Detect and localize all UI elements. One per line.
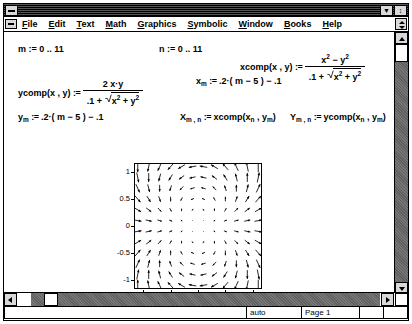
xcomp-numerator: x2 − y2 <box>305 51 365 66</box>
vector-arrow <box>169 220 172 221</box>
vertical-scroll-track[interactable] <box>395 44 408 282</box>
vector-arrow <box>224 220 227 221</box>
vector-arrow <box>181 209 182 212</box>
vector-arrow <box>135 208 141 212</box>
vector-arrow <box>200 165 208 167</box>
vector-arrow <box>234 281 238 288</box>
scroll-up-button[interactable] <box>395 32 408 44</box>
region-y-definition[interactable]: ym := .2·( m − 5 ) − .1 <box>18 112 104 125</box>
vector-arrow <box>224 231 227 232</box>
y-assign: := <box>31 112 38 122</box>
y-rhs: .2·( m − 5 ) − .1 <box>41 112 104 122</box>
vector-arrow <box>213 262 217 266</box>
region-X-matrix-definition[interactable]: Xm , n := xcomp(xn , ym) <box>180 112 276 125</box>
vector-arrow <box>169 174 173 180</box>
vector-arrow <box>223 164 229 170</box>
vector-arrow <box>189 284 197 286</box>
menu-item-books[interactable]: Books <box>284 19 312 30</box>
horizontal-scroll-track[interactable] <box>31 293 380 306</box>
vector-arrow <box>169 231 172 232</box>
vector-arrow <box>211 165 218 169</box>
chevron-up-icon <box>399 21 405 24</box>
region-x-definition[interactable]: xm := .2·( m − 5 ) − .1 <box>196 76 282 89</box>
vector-arrow <box>181 220 183 221</box>
document-system-menu-icon[interactable] <box>5 19 17 29</box>
region-ycomp-definition[interactable]: ycomp(x , y) := 2 x·y .1 + x2 + y2 <box>18 80 143 108</box>
vector-arrow <box>225 251 227 256</box>
status-auto-mode[interactable]: auto <box>247 306 302 319</box>
vector-arrow <box>147 280 150 288</box>
vector-arrow <box>147 164 150 172</box>
vector-arrow <box>257 173 260 183</box>
status-message <box>4 306 247 319</box>
y-tick-label: -0.5 <box>110 249 130 257</box>
scroll-right-button[interactable] <box>381 293 394 306</box>
range-m-text: m := 0 .. 11 <box>18 44 64 54</box>
vector-arrow <box>255 196 261 202</box>
vector-arrow <box>246 184 248 192</box>
vector-arrow <box>235 185 237 192</box>
vector-arrow <box>203 241 205 242</box>
menu-item-edit[interactable]: Edit <box>49 19 66 30</box>
y-tick-label: -1 <box>110 276 130 284</box>
menu-item-math[interactable]: Math <box>105 19 126 30</box>
y-tick-label: 0 <box>110 222 130 230</box>
system-menu-icon[interactable] <box>5 5 18 16</box>
vector-arrow <box>170 251 172 256</box>
region-Y-matrix-definition[interactable]: Ym , n := ycomp(xn , ym) <box>290 112 386 125</box>
vertical-scrollbar[interactable] <box>394 32 408 294</box>
ycomp-fraction: 2 x·y .1 + x2 + y2 <box>83 79 143 107</box>
menu-item-graphics[interactable]: Graphics <box>137 19 176 30</box>
menu-item-symbolic[interactable]: Symbolic <box>187 19 227 30</box>
ycomp-assign: := <box>73 88 80 98</box>
vector-arrow <box>245 196 249 202</box>
vector-arrow <box>224 186 226 192</box>
vector-arrow <box>181 197 183 200</box>
xcomp-denominator: .1 + x2 + y2 <box>305 66 365 83</box>
region-range-n[interactable]: n := 0 .. 11 <box>159 44 202 55</box>
worksheet-canvas[interactable]: m := 0 .. 11 n := 0 .. 11 xcomp(x , y) :… <box>4 32 394 294</box>
menu-item-window[interactable]: Window <box>238 19 272 30</box>
y-tick-mark <box>131 172 134 173</box>
vector-arrow <box>189 166 197 168</box>
arrow-right-icon <box>386 297 390 303</box>
vector-arrow <box>146 240 151 244</box>
vector-arrow <box>214 209 215 212</box>
vertical-scroll-thumb[interactable] <box>395 44 408 62</box>
window-frame: ▼ ↕ FileEditTextMathGraphicsSymbolicWind… <box>3 3 409 321</box>
horizontal-scroll-thumb[interactable] <box>44 293 58 306</box>
minimize-button[interactable]: ▼ <box>380 5 393 16</box>
menu-item-help[interactable]: Help <box>322 19 342 30</box>
vector-arrow <box>158 240 162 244</box>
horizontal-scrollbar[interactable] <box>4 292 408 306</box>
xcomp-name: xcomp <box>240 62 269 72</box>
vector-arrow <box>158 281 162 288</box>
arrow-up-icon <box>399 37 405 41</box>
vector-arrow <box>179 176 184 180</box>
y-tick-label: 1 <box>110 168 130 176</box>
vector-arrow <box>146 230 152 232</box>
vector-arrow <box>135 240 141 244</box>
menu-item-text[interactable]: Text <box>77 19 95 30</box>
document-restore-button[interactable] <box>395 18 407 30</box>
y-tick-mark <box>131 280 134 281</box>
vector-arrow <box>181 231 183 232</box>
menu-item-file[interactable]: File <box>22 19 38 30</box>
mathcad-window: ▼ ↕ FileEditTextMathGraphicsSymbolicWind… <box>0 0 412 324</box>
chevron-down-icon <box>399 26 405 29</box>
region-range-m[interactable]: m := 0 .. 11 <box>18 44 64 55</box>
maximize-button[interactable]: ↕ <box>394 5 407 16</box>
vector-arrow <box>136 260 140 268</box>
vector-arrow <box>203 209 205 210</box>
vector-arrow <box>178 165 185 169</box>
vector-arrow <box>244 231 250 233</box>
vector-arrow <box>181 251 183 254</box>
scroll-left-button[interactable] <box>4 293 17 306</box>
vector-arrow <box>158 174 160 182</box>
range-n-text: n := 0 .. 11 <box>159 44 202 54</box>
vector-arrow <box>235 208 239 212</box>
x-rhs: .2·( m − 5 ) − .1 <box>219 76 282 86</box>
X-fn-args: (xn , ym) <box>243 112 276 122</box>
vector-arrow <box>224 174 228 180</box>
ycomp-numerator: 2 x·y <box>83 79 143 90</box>
